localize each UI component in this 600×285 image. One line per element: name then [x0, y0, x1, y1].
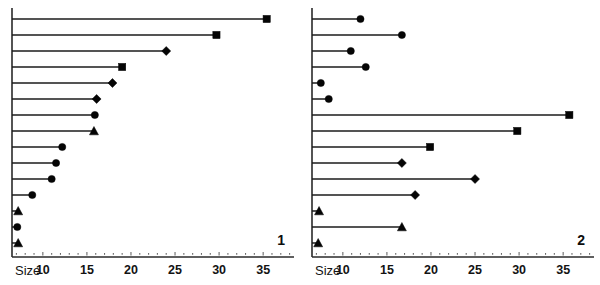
axes-group	[12, 8, 294, 257]
data-row	[12, 159, 60, 166]
data-row	[312, 79, 324, 86]
data-marker-square	[426, 143, 433, 150]
data-marker-square	[566, 111, 573, 118]
data-marker-diamond	[108, 79, 117, 88]
x-axis-minor-ticks	[16, 253, 289, 255]
data-row	[312, 143, 434, 150]
data-row	[12, 79, 117, 88]
x-axis-tick-label: 20	[424, 263, 438, 277]
chart-panel-1: 101520253035Size1	[0, 0, 300, 285]
data-row	[12, 175, 55, 182]
panel-number-label: 2	[577, 232, 585, 248]
x-axis-tick-label: 25	[168, 263, 182, 277]
data-row	[12, 239, 23, 247]
data-row	[312, 95, 332, 102]
x-axis-title: Size	[315, 263, 340, 278]
data-marker-circle	[357, 15, 364, 22]
data-marker-diamond	[471, 175, 480, 184]
data-marker-square	[213, 31, 220, 38]
data-row	[12, 207, 23, 215]
data-row	[312, 15, 364, 22]
data-marker-circle	[398, 31, 405, 38]
data-row	[312, 175, 480, 184]
data-marker-diamond	[411, 191, 420, 200]
x-axis-tick-label: 35	[256, 263, 270, 277]
data-row	[312, 31, 405, 38]
x-axis-tick-label: 30	[512, 263, 526, 277]
x-axis-ticks: 101520253035	[36, 252, 270, 277]
data-row	[312, 63, 369, 70]
data-row	[312, 223, 406, 231]
data-row	[12, 127, 98, 135]
data-series-group	[12, 15, 270, 246]
data-marker-diamond	[397, 159, 406, 168]
data-marker-circle	[347, 47, 354, 54]
data-marker-circle	[325, 95, 332, 102]
data-marker-square	[119, 63, 126, 70]
lollipop-chart-1: 101520253035Size1	[0, 0, 300, 285]
data-marker-circle	[317, 79, 324, 86]
x-axis-tick-label: 15	[380, 263, 394, 277]
x-axis-tick-label: 15	[80, 263, 94, 277]
data-row	[312, 239, 323, 247]
data-marker-square	[263, 15, 270, 22]
figure-root: 101520253035Size1 101520253035Size2	[0, 0, 600, 285]
x-axis-ticks: 101520253035	[336, 252, 570, 277]
data-series-group	[312, 15, 573, 246]
x-axis-minor-ticks	[316, 253, 589, 255]
data-row	[12, 191, 36, 198]
x-axis-tick-label: 20	[124, 263, 138, 277]
panel-number-label: 1	[277, 232, 285, 248]
data-marker-circle	[59, 143, 66, 150]
data-marker-circle	[48, 175, 55, 182]
x-axis-tick-label: 30	[212, 263, 226, 277]
lollipop-chart-2: 101520253035Size2	[300, 0, 600, 285]
chart-panel-2: 101520253035Size2	[300, 0, 600, 285]
data-row	[312, 207, 324, 215]
x-axis-tick-label: 25	[468, 263, 482, 277]
data-row	[12, 95, 101, 104]
x-axis-title: Size	[15, 263, 40, 278]
data-marker-circle	[91, 111, 98, 118]
data-marker-circle	[52, 159, 59, 166]
data-row	[12, 111, 98, 118]
data-marker-square	[514, 127, 521, 134]
axes-group	[312, 8, 594, 257]
data-marker-circle	[362, 63, 369, 70]
data-row	[312, 47, 354, 54]
data-marker-circle	[14, 223, 21, 230]
data-row	[12, 31, 220, 38]
data-marker-diamond	[92, 95, 101, 104]
x-axis-tick-label: 35	[556, 263, 570, 277]
data-row	[312, 127, 521, 134]
data-row	[12, 63, 126, 70]
data-row	[12, 223, 21, 230]
data-row	[312, 191, 420, 200]
data-row	[12, 47, 171, 56]
data-row	[312, 159, 406, 168]
data-marker-circle	[29, 191, 36, 198]
data-row	[312, 111, 573, 118]
data-row	[12, 15, 270, 22]
data-marker-diamond	[162, 47, 171, 56]
data-row	[12, 143, 66, 150]
